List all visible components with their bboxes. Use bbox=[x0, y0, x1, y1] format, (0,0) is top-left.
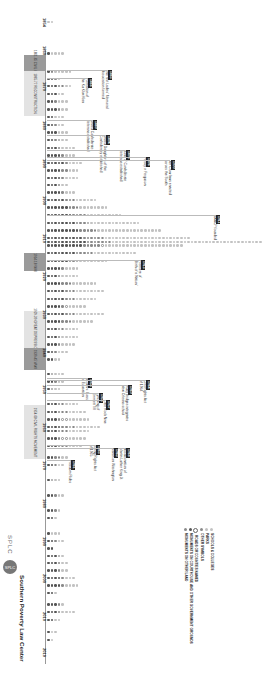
data-dot bbox=[58, 532, 61, 535]
data-dot bbox=[115, 237, 118, 240]
data-dot bbox=[69, 162, 72, 165]
data-dot bbox=[151, 241, 154, 244]
data-dot bbox=[87, 237, 90, 240]
data-dot bbox=[148, 237, 151, 240]
data-dot bbox=[65, 305, 68, 308]
data-dot bbox=[101, 313, 104, 316]
data-dot bbox=[47, 320, 50, 323]
data-dot bbox=[58, 229, 61, 232]
data-dot bbox=[51, 532, 54, 535]
data-dot bbox=[61, 93, 64, 96]
data-dot bbox=[90, 298, 93, 301]
data-dot bbox=[65, 139, 68, 142]
data-dot bbox=[61, 191, 64, 194]
data-dot bbox=[51, 275, 54, 278]
data-dot bbox=[58, 116, 61, 119]
data-dot bbox=[47, 93, 50, 96]
data-dot bbox=[47, 131, 50, 134]
data-dot bbox=[155, 244, 158, 247]
annotation: 1963March on Washington bbox=[110, 448, 118, 481]
data-dot bbox=[47, 631, 50, 634]
annotation: 1964Civil Rights Actof 1964 bbox=[139, 380, 150, 403]
dot-row bbox=[47, 456, 68, 459]
year-tick: 2019 bbox=[38, 647, 50, 657]
data-dot bbox=[97, 241, 100, 244]
data-dot bbox=[65, 229, 68, 232]
data-dot bbox=[69, 577, 72, 580]
data-dot bbox=[47, 464, 50, 467]
data-dot bbox=[76, 418, 79, 421]
data-dot bbox=[202, 241, 205, 244]
annotation: 1961Freedom Rides bbox=[67, 460, 75, 483]
data-dot bbox=[51, 603, 54, 606]
data-dot bbox=[72, 426, 75, 429]
logo-seal-icon: SPLC bbox=[3, 560, 17, 574]
data-dot bbox=[65, 191, 68, 194]
annotation-leader-line bbox=[47, 150, 125, 151]
data-dot bbox=[47, 184, 50, 187]
data-dot bbox=[58, 603, 61, 606]
data-dot bbox=[87, 241, 90, 244]
dot-row bbox=[47, 426, 100, 429]
data-dot bbox=[54, 603, 57, 606]
data-dot bbox=[69, 191, 72, 194]
data-dot bbox=[58, 177, 61, 180]
data-dot bbox=[65, 177, 68, 180]
data-dot bbox=[65, 222, 68, 225]
data-dot bbox=[51, 199, 54, 202]
data-dot bbox=[54, 358, 57, 361]
data-dot bbox=[230, 241, 233, 244]
data-dot bbox=[90, 241, 93, 244]
data-dot bbox=[97, 426, 100, 429]
data-dot bbox=[220, 241, 223, 244]
annotation-leader-line bbox=[47, 448, 113, 449]
data-dot bbox=[76, 241, 79, 244]
data-dot bbox=[61, 584, 64, 587]
data-dot bbox=[61, 275, 64, 278]
data-dot bbox=[79, 430, 82, 433]
data-dot bbox=[69, 237, 72, 240]
data-dot bbox=[76, 437, 79, 440]
data-dot bbox=[65, 403, 68, 406]
data-dot bbox=[140, 241, 143, 244]
data-dot bbox=[97, 237, 100, 240]
data-dot bbox=[54, 116, 57, 119]
data-dot bbox=[105, 252, 108, 255]
data-dot bbox=[58, 388, 61, 391]
data-dot bbox=[51, 93, 54, 96]
annotation-leader-line bbox=[47, 393, 98, 394]
data-dot bbox=[184, 241, 187, 244]
data-dot bbox=[54, 584, 57, 587]
data-dot bbox=[122, 229, 125, 232]
data-dot bbox=[69, 320, 72, 323]
data-dot bbox=[72, 222, 75, 225]
data-dot bbox=[51, 555, 54, 558]
dot-row bbox=[47, 437, 86, 440]
data-dot bbox=[58, 85, 61, 88]
data-dot bbox=[65, 298, 68, 301]
data-dot bbox=[54, 619, 57, 622]
annotation-leader-line bbox=[47, 78, 87, 79]
data-dot bbox=[72, 199, 75, 202]
data-dot bbox=[94, 222, 97, 225]
data-dot bbox=[108, 241, 111, 244]
data-dot bbox=[61, 569, 64, 572]
data-dot bbox=[61, 252, 64, 255]
data-dot bbox=[47, 584, 50, 587]
data-dot bbox=[51, 298, 54, 301]
data-dot bbox=[90, 426, 93, 429]
data-dot bbox=[216, 241, 219, 244]
data-dot bbox=[72, 252, 75, 255]
data-dot bbox=[58, 290, 61, 293]
data-dot bbox=[54, 222, 57, 225]
data-dot bbox=[69, 267, 72, 270]
dot-row bbox=[47, 631, 57, 634]
data-dot bbox=[87, 320, 90, 323]
dot-row bbox=[47, 540, 64, 543]
data-dot bbox=[58, 373, 61, 376]
data-dot bbox=[51, 124, 54, 127]
dot-row bbox=[47, 351, 68, 354]
annotation-leader-line bbox=[47, 385, 127, 386]
data-dot bbox=[54, 191, 57, 194]
data-dot bbox=[255, 241, 258, 244]
